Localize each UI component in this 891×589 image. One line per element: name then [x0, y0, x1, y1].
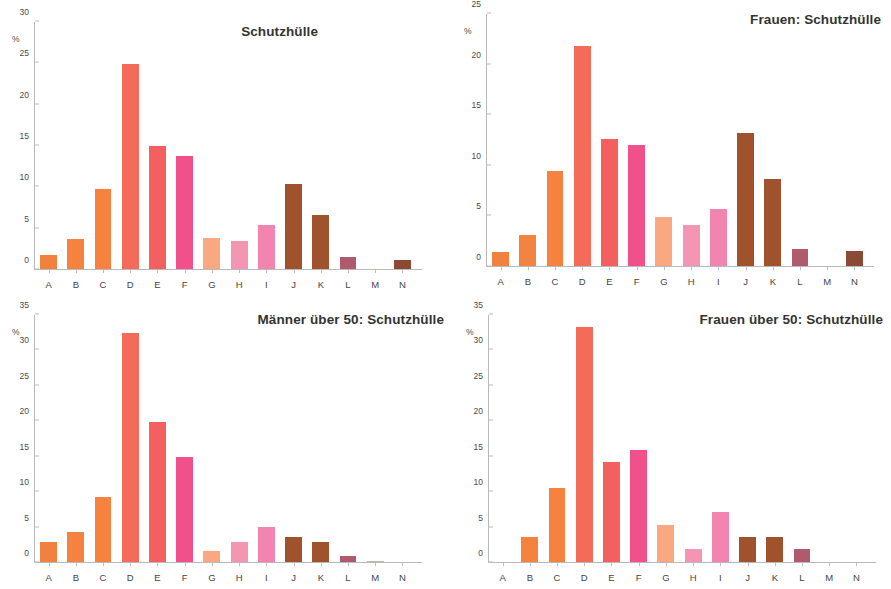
x-tick-slot: M — [816, 563, 843, 589]
x-tick-mark — [294, 270, 295, 273]
x-tick-slot: C — [541, 267, 568, 293]
x-tick-label: C — [89, 572, 116, 583]
x-tick-slot: N — [389, 563, 416, 589]
bar-K[interactable] — [764, 179, 781, 266]
bar-H[interactable] — [683, 225, 700, 266]
bar-A[interactable] — [40, 255, 57, 269]
x-tick-slot: I — [253, 270, 280, 296]
bar-E[interactable] — [149, 422, 166, 562]
x-tick-label: D — [571, 572, 598, 583]
bar-B[interactable] — [67, 239, 84, 269]
bar-slot — [253, 315, 280, 562]
bar-B[interactable] — [519, 235, 536, 266]
bar-slot — [307, 22, 334, 269]
x-tick-mark — [212, 270, 213, 273]
x-tick-mark — [239, 563, 240, 566]
x-tick-slot: L — [786, 267, 813, 293]
y-tick-label: 20 — [20, 90, 29, 100]
bar-K[interactable] — [312, 215, 329, 269]
y-tick-label: 30 — [474, 335, 483, 345]
bar-I[interactable] — [710, 209, 727, 266]
bar-G[interactable] — [657, 525, 674, 562]
x-tick-mark — [185, 563, 186, 566]
bar-slot — [171, 315, 198, 562]
y-tick-label: 15 — [472, 100, 481, 110]
bar-I[interactable] — [258, 527, 275, 562]
bar-F[interactable] — [176, 457, 193, 562]
bar-K[interactable] — [766, 537, 783, 562]
bar-A[interactable] — [40, 542, 57, 562]
bar-H[interactable] — [231, 241, 248, 269]
x-tick-slot: E — [598, 563, 625, 589]
bar-J[interactable] — [285, 184, 302, 269]
x-tick-slot: I — [707, 563, 734, 589]
bar-B[interactable] — [521, 537, 538, 562]
chart-panel-frauen: Frauen: Schutzhülle % 0510152025 ABCDEFG… — [446, 0, 891, 295]
x-tick-slot: B — [62, 270, 89, 296]
bar-J[interactable] — [737, 133, 754, 266]
bar-G[interactable] — [203, 551, 220, 562]
chart-grid: Schutzhülle % 051015202530 ABCDEFGHIJKLM… — [0, 0, 891, 589]
bar-slot — [759, 14, 786, 266]
bar-slot — [226, 22, 253, 269]
bar-H[interactable] — [231, 542, 248, 562]
bar-D[interactable] — [576, 327, 593, 562]
bar-F[interactable] — [630, 450, 647, 562]
x-tick-label: B — [62, 279, 89, 290]
bar-N[interactable] — [846, 251, 863, 266]
bar-H[interactable] — [685, 549, 702, 562]
bar-G[interactable] — [203, 238, 220, 269]
bar-L[interactable] — [794, 549, 811, 562]
bar-C[interactable] — [95, 189, 112, 269]
x-tick-slot: N — [389, 270, 416, 296]
x-tick-mark — [584, 563, 585, 566]
y-tick-label: 10 — [20, 477, 29, 487]
bar-J[interactable] — [739, 537, 756, 562]
bar-A[interactable] — [492, 252, 509, 266]
x-tick-mark — [718, 267, 719, 270]
bar-C[interactable] — [549, 488, 566, 562]
bar-J[interactable] — [285, 537, 302, 562]
bar-D[interactable] — [574, 46, 591, 266]
chart-panel-maenner-ueber-50: Männer über 50: Schutzhülle % 0510152025… — [0, 295, 446, 589]
bar-D[interactable] — [122, 64, 139, 269]
bar-E[interactable] — [603, 462, 620, 562]
bar-series — [489, 315, 870, 562]
bar-D[interactable] — [122, 333, 139, 562]
bar-C[interactable] — [547, 171, 564, 266]
bar-I[interactable] — [712, 512, 729, 562]
bar-I[interactable] — [258, 225, 275, 269]
bar-slot — [816, 315, 843, 562]
bar-L[interactable] — [340, 556, 357, 562]
plot-area: % 051015202530 ABCDEFGHIJKLMN — [34, 22, 416, 270]
bar-series — [35, 315, 416, 562]
bar-F[interactable] — [176, 156, 193, 269]
x-tick-slot: I — [253, 563, 280, 589]
bar-slot — [280, 315, 307, 562]
x-tick-label: F — [171, 572, 198, 583]
x-tick-mark — [800, 267, 801, 270]
bar-M[interactable] — [367, 561, 384, 562]
bar-B[interactable] — [67, 532, 84, 562]
bar-L[interactable] — [340, 257, 357, 269]
bar-F[interactable] — [628, 145, 645, 266]
x-tick-mark — [775, 563, 776, 566]
bar-slot — [226, 315, 253, 562]
plot-area: % 05101520253035 ABCDEFGHIJKLMN — [34, 315, 416, 563]
y-axis-unit-label: % — [12, 34, 20, 44]
bar-K[interactable] — [312, 542, 329, 562]
bar-L[interactable] — [792, 249, 809, 266]
x-tick-label: G — [650, 276, 677, 287]
x-tick-mark — [802, 563, 803, 566]
bar-G[interactable] — [655, 217, 672, 266]
bar-C[interactable] — [95, 497, 112, 562]
x-tick-slot: A — [487, 267, 514, 293]
x-tick-slot: K — [307, 563, 334, 589]
bar-E[interactable] — [149, 146, 166, 270]
y-tick-label: 25 — [472, 0, 481, 9]
x-tick-slot: F — [623, 267, 650, 293]
bar-N[interactable] — [394, 260, 411, 269]
plot-area: % 05101520253035 ABCDEFGHIJKLMN — [488, 315, 870, 563]
x-tick-label: E — [144, 279, 171, 290]
bar-E[interactable] — [601, 139, 618, 266]
